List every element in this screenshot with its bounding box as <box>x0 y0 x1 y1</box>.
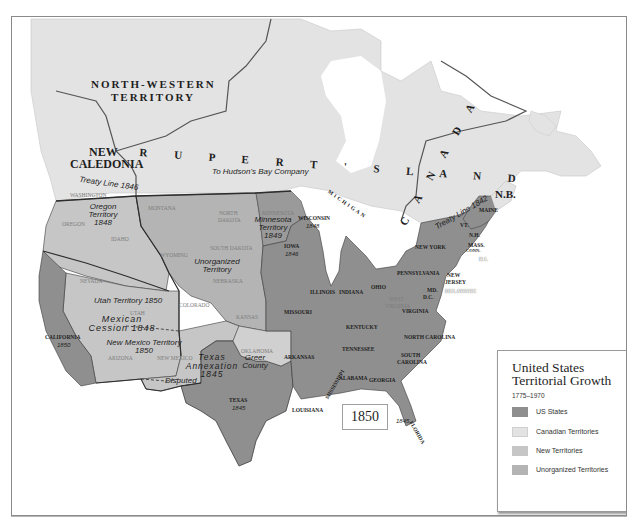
state-alabama: ALABAMA <box>339 376 367 382</box>
future-west-virginia: WEST <box>389 297 404 303</box>
state-ohio: OHIO <box>371 285 386 291</box>
swatch-new-territories <box>512 446 528 456</box>
legend-label: US States <box>536 408 568 415</box>
state-texas-year: 1845 <box>232 405 245 411</box>
future-north-dakota-2: DAKOTA <box>218 218 241 224</box>
greer-county-label: Greer County <box>240 354 270 370</box>
state-louisiana: LOUISIANA <box>292 408 323 414</box>
year-badge: 1850 <box>342 404 388 430</box>
future-new-mexico: NEW MEXICO <box>157 356 193 362</box>
oregon-territory-label: Oregon Territory 1848 <box>83 203 123 227</box>
north-western-territory-label: NORTH-WESTERN <box>91 79 216 90</box>
state-illinois: ILLINOIS <box>310 290 335 296</box>
state-georgia: GEORGIA <box>369 378 396 384</box>
mexican-cession-label: Mexican Cession 1848 <box>86 315 158 333</box>
future-north-dakota: NORTH <box>219 211 238 217</box>
state-maryland: MD. <box>427 288 438 294</box>
state-dc: D.C. <box>423 295 434 301</box>
future-oklahoma: OKLAHOMA <box>241 349 273 355</box>
future-nevada: NEVADA <box>80 279 103 285</box>
future-arizona: ARIZONA <box>108 356 133 362</box>
north-western-territory-label-2: TERRITORY <box>111 92 195 103</box>
swatch-canadian-territories <box>512 427 528 437</box>
minnesota-territory-label: Minnesota Territory 1849 <box>251 216 295 240</box>
state-kentucky: KENTUCKY <box>346 325 378 331</box>
legend-label: Unorganized Territories <box>536 466 608 473</box>
state-california-year: 1850 <box>57 342 70 348</box>
new-brunswick-label: N.B. <box>495 189 516 200</box>
state-new-hampshire: N.H. <box>469 233 480 239</box>
state-missouri: MISSOURI <box>284 310 312 316</box>
future-nebraska: NEBRASKA <box>213 279 243 285</box>
swatch-us-states <box>512 407 528 417</box>
new-mexico-territory-label: New Mexico Territory 1850 <box>104 339 184 355</box>
future-south-dakota: SOUTH DAKOTA <box>210 246 253 252</box>
future-kansas: KANSAS <box>236 315 258 321</box>
disputed-label: Disputed <box>165 377 197 385</box>
state-south-carolina-2: CAROLINA <box>397 360 427 366</box>
legend-title-line2: Territorial Growth <box>512 374 611 387</box>
future-wyoming: WYOMING <box>160 253 188 259</box>
state-south-carolina: SOUTH <box>401 353 420 359</box>
state-wisconsin: WISCONSIN <box>298 216 330 222</box>
future-utah: UTAH <box>130 311 145 317</box>
state-connecticut: CONN. <box>466 249 480 254</box>
state-iowa: IOWA <box>284 244 299 250</box>
legend-label: Canadian Territories <box>536 428 599 435</box>
future-montana: MONTANA <box>148 206 176 212</box>
legend-title: United States Territorial Growth <box>512 361 611 387</box>
map-frame: NORTH-WESTERN TERRITORY NEW CALEDONIA R … <box>11 16 627 516</box>
state-iowa-year: 1846 <box>285 251 298 257</box>
state-rhode-island: R.I. <box>479 257 488 263</box>
future-washington: WASHINGTON <box>70 193 107 199</box>
legend-label: New Territories <box>536 447 583 454</box>
state-california: CALIFORNIA <box>45 335 80 341</box>
future-minnesota: MINNESOTA <box>262 211 294 217</box>
state-florida-year: 1845 <box>396 418 409 424</box>
utah-territory-label: Utah Territory 1850 <box>94 297 162 305</box>
state-new-york: NEW YORK <box>415 245 446 251</box>
state-virginia: VIRGINIA <box>402 309 429 315</box>
legend: United States Territorial Growth 1775–19… <box>497 350 627 512</box>
state-indiana: INDIANA <box>339 290 363 296</box>
future-oregon: OREGON <box>62 222 85 228</box>
state-maine: MAINE <box>479 208 498 214</box>
swatch-unorganized-territories <box>512 465 528 475</box>
state-wisconsin-year: 1848 <box>306 223 319 229</box>
state-new-jersey: NEW <box>447 273 460 279</box>
unorganized-territory-label: Unorganized Territory <box>190 258 244 274</box>
state-pennsylvania: PENNSYLVANIA <box>397 271 440 277</box>
new-caledonia-label-2: CALEDONIA <box>70 158 143 170</box>
state-texas: TEXAS <box>229 398 247 404</box>
state-delaware: DELAWARE <box>445 289 476 295</box>
state-arkansas: ARKANSAS <box>284 355 314 361</box>
legend-date-range: 1775–1970 <box>512 392 545 399</box>
future-idaho: IDAHO <box>111 237 129 243</box>
hudsons-bay-company-label: To Hudson's Bay Company <box>212 168 308 176</box>
state-tennessee: TENNESSEE <box>342 347 374 353</box>
future-colorado: COLORADO <box>179 303 210 309</box>
state-north-carolina: NORTH CAROLINA <box>404 335 455 341</box>
state-vermont: VT. <box>460 223 469 229</box>
state-new-jersey-2: JERSEY <box>445 280 466 286</box>
future-west-virginia-2: VIRGINIA <box>385 304 410 310</box>
